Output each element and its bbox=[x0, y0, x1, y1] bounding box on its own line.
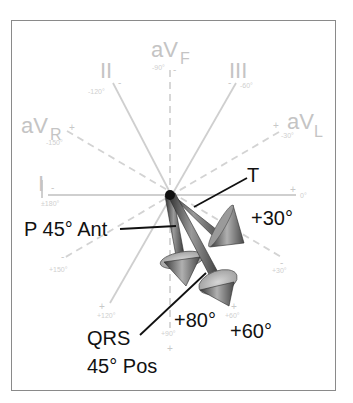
lead-avl-neg-angle: +150° bbox=[49, 266, 68, 273]
lead-ii-neg-angle: -120° bbox=[88, 88, 105, 95]
lead-iii-pos-angle: +120° bbox=[97, 312, 116, 319]
p-leader bbox=[120, 226, 176, 229]
lead-avf-neg-sign: - bbox=[173, 64, 176, 75]
lead-iii-pos-sign: + bbox=[99, 301, 105, 312]
lead-avl-neg-sign: - bbox=[61, 251, 64, 262]
lead-ii-pos-angle: +60° bbox=[225, 312, 240, 319]
lead-i-neg-sign: - bbox=[51, 182, 54, 193]
lead-i-label: I bbox=[38, 171, 44, 196]
lead-avr-pos-angle: -150° bbox=[46, 139, 63, 146]
lead-ii-pos-sign: + bbox=[231, 301, 237, 312]
lead-avr-pos-sign: + bbox=[69, 122, 75, 133]
lead-i-pos-sign: + bbox=[290, 184, 296, 195]
p-label: P 45° Ant bbox=[24, 218, 108, 240]
lead-avr-neg-angle: +30° bbox=[272, 267, 287, 274]
origin-dot bbox=[165, 190, 175, 200]
lead-i-pos-angle: 0° bbox=[300, 192, 307, 199]
t-angle-label: +30° bbox=[251, 207, 293, 229]
lead-iii-neg-sign: - bbox=[228, 77, 231, 88]
svg-text:L: L bbox=[314, 123, 323, 140]
svg-text:aV: aV bbox=[151, 37, 178, 62]
vectors bbox=[159, 190, 244, 306]
hexaxial-diagram: I - ±180° + 0° II - -120° + +60° III - -… bbox=[0, 0, 353, 403]
qrs-angle-label: +60° bbox=[230, 320, 272, 342]
lead-iii-neg-angle: -60° bbox=[240, 82, 253, 89]
lead-avf-neg-angle: -90° bbox=[152, 64, 165, 71]
svg-text:aV: aV bbox=[287, 109, 314, 134]
lead-avl-pos-angle: -30° bbox=[281, 132, 294, 139]
qrs-sublabel: 45° Pos bbox=[87, 355, 157, 377]
p-angle-label: +80° bbox=[174, 309, 216, 331]
lead-avf-pos-sign: + bbox=[167, 343, 173, 354]
lead-avf-label: aV F bbox=[151, 37, 190, 67]
svg-text:F: F bbox=[180, 50, 190, 67]
svg-text:aV: aV bbox=[21, 113, 48, 138]
t-leader bbox=[194, 178, 247, 207]
qrs-label: QRS bbox=[87, 327, 130, 349]
lead-ii-label: II bbox=[100, 58, 112, 83]
t-label: T bbox=[247, 164, 259, 186]
lead-avf-pos-angle: +90° bbox=[161, 330, 176, 337]
lead-i-neg-angle: ±180° bbox=[41, 200, 60, 207]
lead-ii-neg-sign: - bbox=[118, 77, 121, 88]
lead-avl-pos-sign: + bbox=[273, 120, 279, 131]
lead-iii-label: III bbox=[229, 58, 247, 83]
